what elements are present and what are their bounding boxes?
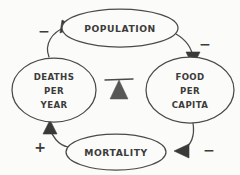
link-mortality-to-deaths: + xyxy=(34,120,68,155)
polarity-population-to-food: − xyxy=(199,36,211,52)
node-deaths-per-year-label-line1: DEATHS xyxy=(34,72,75,82)
arrowhead-into-mortality xyxy=(174,144,189,158)
link-food-to-mortality: − xyxy=(174,123,215,158)
node-deaths-per-year-label-line2: PER xyxy=(44,86,64,96)
polarity-mortality-to-deaths: + xyxy=(34,139,46,155)
fulcrum-triangle xyxy=(110,80,128,99)
node-food-per-capita-label-line3: CAPITA xyxy=(172,100,209,110)
node-population[interactable]: POPULATION xyxy=(62,9,178,47)
node-food-per-capita[interactable]: FOOD PER CAPITA xyxy=(146,57,234,123)
polarity-food-to-mortality: − xyxy=(203,142,215,158)
causal-loop-diagram: − − − + POPULATION xyxy=(0,0,240,175)
node-food-per-capita-label-line2: PER xyxy=(180,86,200,96)
node-deaths-per-year-label-line3: YEAR xyxy=(40,100,68,110)
polarity-deaths-to-population: − xyxy=(38,23,50,39)
node-food-per-capita-label-line1: FOOD xyxy=(175,72,204,82)
diagram-canvas: − − − + POPULATION xyxy=(0,0,240,175)
balancing-loop-fulcrum-icon xyxy=(105,79,133,99)
node-mortality[interactable]: MORTALITY xyxy=(66,134,166,170)
node-deaths-per-year[interactable]: DEATHS PER YEAR xyxy=(12,58,96,122)
node-mortality-label: MORTALITY xyxy=(84,147,147,158)
node-population-label: POPULATION xyxy=(84,23,156,34)
